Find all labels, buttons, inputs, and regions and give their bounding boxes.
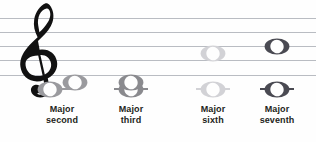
- notehead-major-sixth-upper: [200, 45, 226, 62]
- notehead-major-second-upper: [62, 74, 88, 91]
- interval-caption-major-sixth: Majorsixth: [180, 104, 246, 126]
- caption-line-2: third: [98, 115, 164, 126]
- interval-major-sixth: Majorsixth: [180, 0, 246, 142]
- caption-line-2: sixth: [180, 115, 246, 126]
- caption-line-1: Major: [119, 104, 144, 114]
- music-interval-figure: MajorsecondMajorthirdMajorsixthMajorseve…: [0, 0, 316, 142]
- interval-major-seventh: Majorseventh: [244, 0, 310, 142]
- interval-caption-major-second: Majorsecond: [29, 104, 95, 126]
- caption-line-1: Major: [265, 104, 290, 114]
- notehead-major-second-lower: [37, 81, 63, 98]
- notehead-major-sixth-lower: [200, 81, 226, 98]
- notehead-major-third-upper: [118, 74, 144, 91]
- caption-line-2: second: [29, 115, 95, 126]
- caption-line-2: seventh: [244, 115, 310, 126]
- interval-caption-major-seventh: Majorseventh: [244, 104, 310, 126]
- caption-line-1: Major: [50, 104, 75, 114]
- interval-caption-major-third: Majorthird: [98, 104, 164, 126]
- interval-major-second: Majorsecond: [29, 0, 95, 142]
- interval-major-third: Majorthird: [98, 0, 164, 142]
- notehead-major-seventh-lower: [264, 81, 290, 98]
- notehead-major-seventh-upper: [264, 38, 290, 55]
- caption-line-1: Major: [201, 104, 226, 114]
